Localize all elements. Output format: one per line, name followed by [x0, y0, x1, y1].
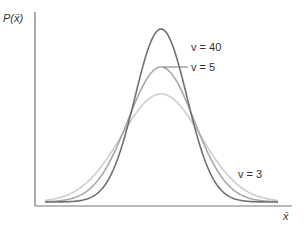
label-nu40: v = 40 [191, 41, 221, 53]
x-axis-label: x̄ [283, 210, 289, 222]
curve-5 [45, 67, 278, 202]
chart-canvas [0, 0, 304, 230]
label-nu5: v = 5 [191, 61, 215, 73]
y-axis-label: P(x̄) [3, 12, 23, 24]
curve-3 [45, 94, 278, 201]
label-nu3: v = 3 [238, 168, 262, 180]
